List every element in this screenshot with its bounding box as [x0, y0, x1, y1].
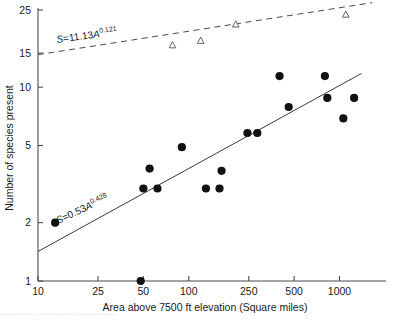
page-bottom-artifact: ........................................…	[0, 307, 396, 321]
data-point-filled	[321, 72, 329, 80]
y-tick-label: 10	[19, 81, 31, 93]
data-point-open-triangle	[197, 37, 204, 43]
x-tick-label: 1000	[328, 285, 352, 297]
y-axis-ticks: 125101525	[19, 4, 43, 287]
y-tick-label: 1	[25, 275, 31, 287]
data-point-filled	[285, 103, 293, 111]
x-axis-ticks: 1025501002505001000	[32, 276, 351, 297]
plot-axes	[38, 8, 386, 281]
data-point-filled	[178, 143, 186, 151]
data-point-open-triangle	[169, 42, 176, 48]
data-point-filled	[253, 129, 261, 137]
equation-label-reference-regression: S=11.13A0.121	[56, 25, 118, 45]
data-point-filled	[137, 277, 145, 285]
y-tick-label: 5	[25, 139, 31, 151]
y-tick-label: 25	[19, 4, 31, 16]
data-point-filled	[275, 72, 283, 80]
data-point-filled	[215, 184, 223, 192]
y-tick-label: 15	[19, 47, 31, 59]
x-tick-label: 250	[240, 285, 258, 297]
x-tick-label: 25	[92, 285, 104, 297]
data-point-markers	[51, 11, 358, 285]
data-point-filled	[323, 94, 331, 102]
data-point-filled	[243, 129, 251, 137]
x-tick-label: 100	[180, 285, 198, 297]
species-area-scatter-plot: 125101525 1025501002505001000 S=0.53A0.4…	[0, 0, 396, 321]
data-point-filled	[146, 165, 154, 173]
data-point-filled	[202, 184, 210, 192]
x-tick-label: 500	[285, 285, 303, 297]
data-point-open-triangle	[342, 11, 349, 17]
data-point-filled	[339, 114, 347, 122]
y-axis-title: Number of species present	[3, 85, 15, 211]
equation-label-mammal-regression: S=0.53A0.428	[54, 191, 110, 226]
y-tick-label: 2	[25, 216, 31, 228]
equation-labels: S=0.53A0.428S=11.13A0.121	[54, 25, 118, 226]
data-point-filled	[217, 167, 225, 175]
x-tick-label: 50	[138, 285, 150, 297]
fit-line-mammal-regression	[38, 73, 362, 251]
data-point-filled	[153, 184, 161, 192]
chart-root: 125101525 1025501002505001000 S=0.53A0.4…	[0, 0, 396, 321]
data-point-filled	[139, 184, 147, 192]
x-tick-label: 10	[32, 285, 44, 297]
data-point-filled	[350, 94, 358, 102]
